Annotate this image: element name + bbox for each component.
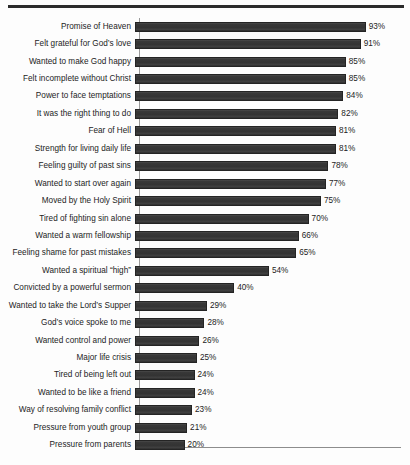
bar-track: 21% bbox=[135, 419, 410, 436]
bar bbox=[135, 266, 269, 276]
bar-row: Felt grateful for God’s love91% bbox=[0, 35, 410, 52]
bar-row: Tired of fighting sin alone70% bbox=[0, 210, 410, 227]
bar-track: 20% bbox=[135, 437, 410, 454]
bar bbox=[135, 74, 346, 84]
bar-row: Moved by the Holy Spirit75% bbox=[0, 192, 410, 209]
bar-category-label: Way of resolving family conflict bbox=[0, 405, 135, 415]
bar-value-label: 66% bbox=[302, 231, 318, 241]
bar-track: 82% bbox=[135, 105, 410, 122]
bar-value-label: 84% bbox=[346, 91, 362, 101]
bar-rows: Promise of Heaven93%Felt grateful for Go… bbox=[0, 18, 410, 454]
bar-value-label: 85% bbox=[349, 74, 365, 84]
bar-category-label: It was the right thing to do bbox=[0, 109, 135, 119]
bar-row: Wanted to start over again77% bbox=[0, 175, 410, 192]
bar-category-label: Strength for living daily life bbox=[0, 144, 135, 154]
bar bbox=[135, 248, 296, 258]
bar-category-label: Pressure from parents bbox=[0, 440, 135, 450]
bar-category-label: Wanted a warm fellowship bbox=[0, 231, 135, 241]
bar-track: 28% bbox=[135, 314, 410, 331]
bar-category-label: Tired of fighting sin alone bbox=[0, 214, 135, 224]
bar bbox=[135, 22, 366, 32]
bar-category-label: Convicted by a powerful sermon bbox=[0, 283, 135, 293]
bar-value-label: 54% bbox=[272, 266, 288, 276]
bar-category-label: Major life crisis bbox=[0, 353, 135, 363]
bar bbox=[135, 318, 204, 328]
bar-value-label: 78% bbox=[331, 161, 347, 171]
bar-category-label: Wanted to start over again bbox=[0, 179, 135, 189]
bar-row: Wanted to make God happy85% bbox=[0, 53, 410, 70]
bar-track: 23% bbox=[135, 402, 410, 419]
bar-track: 78% bbox=[135, 158, 410, 175]
bar-value-label: 93% bbox=[369, 22, 385, 32]
bar-row: Feeling shame for past mistakes65% bbox=[0, 245, 410, 262]
bar bbox=[135, 91, 343, 101]
bar-row: Wanted a warm fellowship66% bbox=[0, 227, 410, 244]
bar-row: Pressure from parents20% bbox=[0, 437, 410, 454]
bar bbox=[135, 144, 336, 154]
bar bbox=[135, 405, 192, 415]
bar-row: It was the right thing to do82% bbox=[0, 105, 410, 122]
bar bbox=[135, 423, 187, 433]
bar-track: 91% bbox=[135, 35, 410, 52]
bar bbox=[135, 161, 328, 171]
bar-row: Wanted control and power26% bbox=[0, 332, 410, 349]
bar-value-label: 85% bbox=[349, 57, 365, 67]
top-divider-rule bbox=[8, 5, 404, 8]
bar bbox=[135, 231, 299, 241]
bar-track: 77% bbox=[135, 175, 410, 192]
bar-category-label: Wanted to make God happy bbox=[0, 57, 135, 67]
bar-track: 84% bbox=[135, 88, 410, 105]
bar-track: 70% bbox=[135, 210, 410, 227]
bar-category-label: God’s voice spoke to me bbox=[0, 318, 135, 328]
bar-value-label: 91% bbox=[364, 39, 380, 49]
bar-category-label: Wanted a spiritual “high” bbox=[0, 266, 135, 276]
bar-value-label: 82% bbox=[341, 109, 357, 119]
bar-track: 24% bbox=[135, 367, 410, 384]
bar-row: Wanted to be like a friend24% bbox=[0, 384, 410, 401]
bar-category-label: Power to face temptations bbox=[0, 91, 135, 101]
bar bbox=[135, 388, 195, 398]
bar-value-label: 81% bbox=[339, 144, 355, 154]
bar-value-label: 77% bbox=[329, 179, 345, 189]
bar-track: 65% bbox=[135, 245, 410, 262]
bar-category-label: Moved by the Holy Spirit bbox=[0, 196, 135, 206]
bar bbox=[135, 57, 346, 67]
bar-track: 85% bbox=[135, 70, 410, 87]
bar-category-label: Wanted control and power bbox=[0, 336, 135, 346]
bar-track: 93% bbox=[135, 18, 410, 35]
bar-value-label: 75% bbox=[324, 196, 340, 206]
bar-track: 54% bbox=[135, 262, 410, 279]
bar bbox=[135, 214, 309, 224]
bar-track: 24% bbox=[135, 384, 410, 401]
bar-value-label: 70% bbox=[312, 214, 328, 224]
bar-value-label: 28% bbox=[207, 318, 223, 328]
bar-category-label: Promise of Heaven bbox=[0, 22, 135, 32]
bar-track: 66% bbox=[135, 227, 410, 244]
bar-row: Tired of being left out24% bbox=[0, 367, 410, 384]
bar bbox=[135, 370, 195, 380]
bar-value-label: 24% bbox=[198, 388, 214, 398]
bar-value-label: 23% bbox=[195, 405, 211, 415]
bar-row: Convicted by a powerful sermon40% bbox=[0, 280, 410, 297]
bar bbox=[135, 353, 197, 363]
bar-category-label: Wanted to be like a friend bbox=[0, 388, 135, 398]
bar-row: Felt incomplete without Christ85% bbox=[0, 70, 410, 87]
bar-row: God’s voice spoke to me28% bbox=[0, 314, 410, 331]
bar-track: 81% bbox=[135, 140, 410, 157]
bar-track: 40% bbox=[135, 280, 410, 297]
bar-row: Major life crisis25% bbox=[0, 349, 410, 366]
bar bbox=[135, 39, 361, 49]
bar bbox=[135, 283, 234, 293]
bar-value-label: 29% bbox=[210, 301, 226, 311]
bar-value-label: 20% bbox=[188, 440, 204, 450]
bar-value-label: 40% bbox=[237, 283, 253, 293]
bar-row: Promise of Heaven93% bbox=[0, 18, 410, 35]
bar-track: 85% bbox=[135, 53, 410, 70]
bar-track: 75% bbox=[135, 192, 410, 209]
bar-value-label: 26% bbox=[202, 336, 218, 346]
bar-category-label: Tired of being left out bbox=[0, 370, 135, 380]
bar bbox=[135, 301, 207, 311]
bar-value-label: 21% bbox=[190, 423, 206, 433]
chart-page: Promise of Heaven93%Felt grateful for Go… bbox=[0, 0, 410, 465]
bar-row: Way of resolving family conflict23% bbox=[0, 402, 410, 419]
